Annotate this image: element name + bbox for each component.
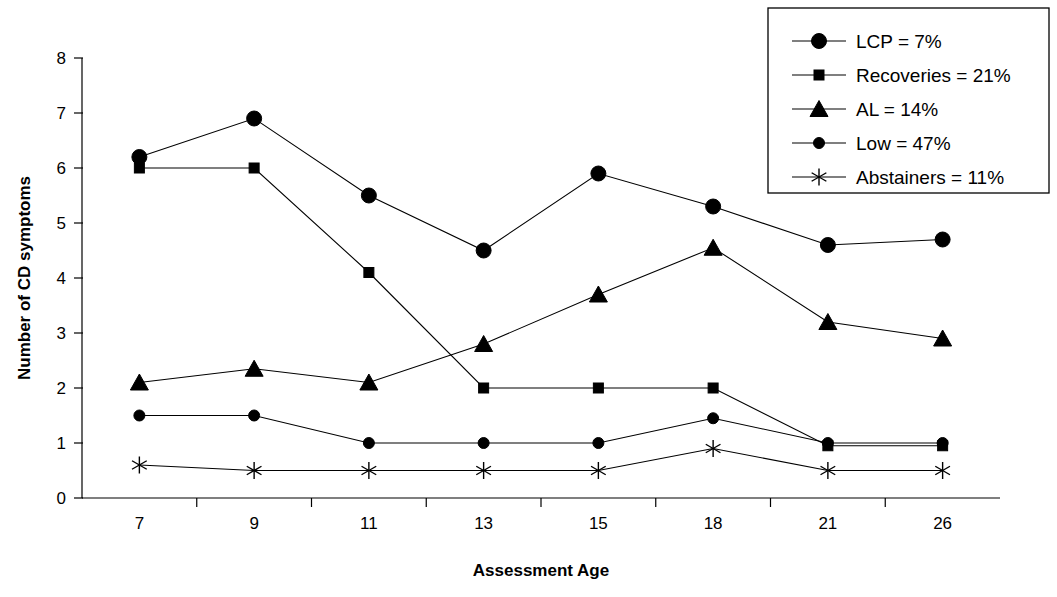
x-tick-label: 9 xyxy=(249,514,258,533)
circle-large-marker-icon xyxy=(476,243,491,258)
line-chart-canvas: 012345678 79111315182126 Number of CD sy… xyxy=(0,0,1057,597)
y-axis-title: Number of CD symptoms xyxy=(15,176,34,380)
circle-large-marker-icon xyxy=(820,238,835,253)
square-marker-icon xyxy=(364,268,374,278)
chart-legend: LCP = 7%Recoveries = 21%AL = 14%Low = 47… xyxy=(768,8,1049,193)
circle-large-marker-icon xyxy=(247,111,262,126)
circle-small-marker-icon xyxy=(249,410,260,421)
circle-small-marker-icon xyxy=(134,410,145,421)
legend-item-label: AL = 14% xyxy=(856,99,938,120)
x-tick-label: 26 xyxy=(933,514,952,533)
x-tick-label: 13 xyxy=(474,514,493,533)
y-tick-label: 7 xyxy=(57,104,66,123)
legend-item-label: Abstainers = 11% xyxy=(856,167,1004,188)
circle-small-marker-icon xyxy=(708,413,719,424)
circle-small-marker-icon xyxy=(593,438,604,449)
circle-small-marker-icon xyxy=(814,138,825,149)
y-tick-label: 1 xyxy=(57,434,66,453)
legend-item-label: Recoveries = 21% xyxy=(856,65,1011,86)
legend-item-label: LCP = 7% xyxy=(856,31,942,52)
square-marker-icon xyxy=(593,383,603,393)
x-tick-label: 7 xyxy=(135,514,144,533)
circle-large-marker-icon xyxy=(591,166,606,181)
circle-large-marker-icon xyxy=(935,232,950,247)
square-marker-icon xyxy=(708,383,718,393)
square-marker-icon xyxy=(134,163,144,173)
square-marker-icon xyxy=(479,383,489,393)
y-tick-label: 0 xyxy=(57,489,66,508)
y-tick-label: 6 xyxy=(57,159,66,178)
square-marker-icon xyxy=(814,70,824,80)
circle-small-marker-icon xyxy=(478,438,489,449)
x-axis-title: Assessment Age xyxy=(473,561,609,580)
circle-large-marker-icon xyxy=(361,188,376,203)
y-tick-label: 8 xyxy=(57,49,66,68)
y-tick-label: 2 xyxy=(57,379,66,398)
chart-figure: 012345678 79111315182126 Number of CD sy… xyxy=(0,0,1057,597)
x-tick-label: 21 xyxy=(818,514,837,533)
y-tick-label: 3 xyxy=(57,324,66,343)
y-tick-label: 4 xyxy=(57,269,66,288)
legend-item-label: Low = 47% xyxy=(856,133,951,154)
y-tick-label: 5 xyxy=(57,214,66,233)
x-tick-label: 15 xyxy=(589,514,608,533)
circle-large-marker-icon xyxy=(812,34,827,49)
circle-small-marker-icon xyxy=(822,438,833,449)
circle-large-marker-icon xyxy=(706,199,721,214)
circle-small-marker-icon xyxy=(937,438,948,449)
x-tick-label: 18 xyxy=(704,514,723,533)
circle-small-marker-icon xyxy=(363,438,374,449)
square-marker-icon xyxy=(249,163,259,173)
x-tick-label: 11 xyxy=(360,514,378,533)
circle-large-marker-icon xyxy=(132,150,147,165)
